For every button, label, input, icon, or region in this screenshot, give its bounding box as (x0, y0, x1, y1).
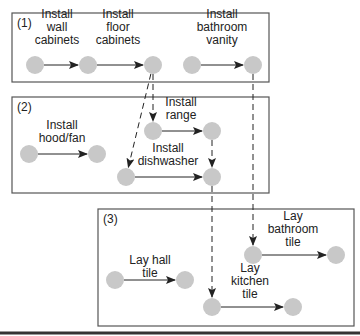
activity-label-a9: Laykitchentile (231, 261, 269, 301)
event-node-n15 (327, 246, 345, 264)
event-node-n4 (183, 56, 201, 74)
activity-label-a4: Installhood/fan (39, 118, 86, 145)
activity-label-a5: Installrange (165, 95, 196, 122)
event-node-n12 (106, 271, 124, 289)
event-node-n17 (284, 298, 302, 316)
activity-label-a7: Lay halltile (129, 253, 170, 280)
phase-box-2 (12, 97, 269, 193)
event-node-n9 (203, 122, 221, 140)
activity-label-a8: Laybathroomtile (268, 209, 319, 249)
phase-label-3: (3) (103, 212, 118, 226)
event-node-n1 (26, 56, 44, 74)
event-node-n2 (79, 56, 97, 74)
event-node-n6 (20, 145, 38, 163)
phase-label-2: (2) (17, 100, 32, 114)
phase-label-1: (1) (17, 16, 32, 30)
event-node-n11 (203, 168, 221, 186)
event-node-n7 (88, 145, 106, 163)
event-node-n3 (144, 56, 162, 74)
event-node-n13 (176, 271, 194, 289)
event-node-n10 (117, 168, 135, 186)
activity-label-a6: Installdishwasher (138, 141, 199, 168)
event-node-n16 (203, 298, 221, 316)
event-node-n8 (144, 122, 162, 140)
activity-label-a1: Installwallcabinets (35, 7, 80, 47)
activity-network-diagram: (1)(2)(3) InstallwallcabinetsInstallfloo… (0, 0, 360, 336)
event-node-n5 (244, 56, 262, 74)
activity-label-a2: Installfloorcabinets (96, 7, 141, 47)
